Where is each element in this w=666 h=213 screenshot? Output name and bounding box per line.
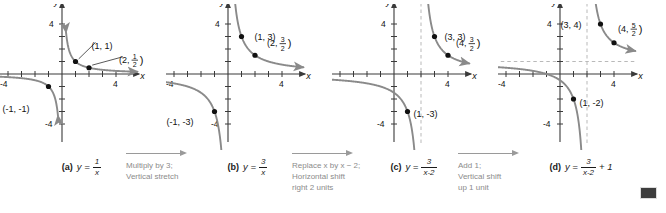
- svg-text:2: 2: [470, 45, 474, 52]
- data-point: [86, 65, 91, 70]
- equation-fraction-d: 3 x-2: [581, 158, 596, 177]
- svg-text:2: 2: [632, 30, 636, 37]
- x-tick-label-pos: 4: [113, 79, 118, 89]
- x-axis-label: x: [139, 71, 145, 81]
- equation-denominator-c: x-2: [421, 167, 436, 177]
- transition-arrow-icon-2: [292, 150, 354, 158]
- equation-a: y = 1 x: [77, 158, 104, 177]
- equation-lhs-d: y =: [565, 162, 578, 173]
- y-tick-label-pos: 4: [49, 19, 54, 29]
- graph-b: 4-44-4xy(1, 3)(2,32)(-1, -3): [166, 4, 332, 150]
- graph-a: 4-44-4xy(1, 1)(2,12)(-1, -1): [0, 4, 166, 150]
- graph-c: 44-4xy(3, 3)(4,32)(1, -3): [332, 4, 498, 150]
- transition-arrow-icon-3: [458, 150, 520, 158]
- data-point: [571, 96, 576, 101]
- equation-lhs-a: y =: [77, 162, 90, 173]
- transition-text-2: Replace x by x − 2; Horizontal shift rig…: [290, 161, 386, 193]
- point-label: (1, -3): [414, 109, 438, 119]
- data-point: [405, 109, 410, 114]
- transition-line1-1: Multiply by 3;: [126, 161, 220, 172]
- data-point: [432, 34, 437, 39]
- panel-letter-a: (a): [62, 162, 73, 172]
- equation-fraction-a: 1 x: [93, 158, 101, 177]
- transition-line2-3: Vertical shift: [458, 172, 552, 183]
- transition-a-to-b: Multiply by 3; Vertical stretch: [124, 150, 220, 183]
- plot-a: 4-44-4xy(1, 1)(2,12)(-1, -1): [0, 4, 166, 150]
- point-label: (1, -2): [580, 98, 604, 108]
- plot-c: 44-4xy(3, 3)(4,32)(1, -3): [332, 4, 498, 150]
- data-point: [73, 59, 78, 64]
- transition-text-1: Multiply by 3; Vertical stretch: [124, 161, 220, 183]
- equation-numerator-c: 3: [425, 158, 433, 167]
- transition-b-to-c: Replace x by x − 2; Horizontal shift rig…: [290, 150, 386, 193]
- x-tick-label-pos: 4: [445, 79, 450, 89]
- data-point: [598, 21, 603, 26]
- data-point: [212, 109, 217, 114]
- svg-text:): ): [288, 37, 292, 49]
- equation-numerator-a: 1: [93, 158, 101, 167]
- point-label: (3, 4): [561, 20, 582, 30]
- point-label: (1, 1): [92, 41, 113, 51]
- svg-text:(2,: (2,: [267, 38, 278, 48]
- data-point: [611, 40, 616, 45]
- curve-branch-left: [498, 66, 582, 150]
- transition-text-3: Add 1; Vertical shift up 1 unit: [456, 161, 552, 193]
- point-label: (2,12): [119, 53, 143, 69]
- svg-text:2: 2: [281, 45, 285, 52]
- transition-line3-2: right 2 units: [292, 183, 386, 194]
- panel-letter-c: (c): [390, 162, 401, 172]
- equation-denominator-d: x-2: [581, 167, 596, 177]
- plot-b: 4-44-4xy(1, 3)(2,32)(-1, -3): [166, 4, 332, 150]
- x-axis-label: x: [471, 71, 477, 81]
- point-label: (-1, -3): [167, 117, 194, 127]
- end-of-section-marker: [640, 187, 657, 199]
- equation-denominator-b: x: [259, 167, 267, 177]
- svg-text:(2,: (2,: [119, 55, 130, 65]
- transition-line1-3: Add 1;: [458, 161, 552, 172]
- y-tick-label-neg: -4: [543, 119, 551, 129]
- point-label: (4,32): [456, 36, 480, 52]
- svg-text:(4,: (4,: [618, 24, 629, 34]
- x-tick-label-neg: -4: [498, 79, 506, 89]
- svg-text:2: 2: [133, 61, 137, 68]
- transition-arrow-icon-1: [126, 150, 188, 158]
- data-point: [252, 53, 257, 58]
- curve-branch-left: [332, 79, 415, 150]
- transition-c-to-d: Add 1; Vertical shift up 1 unit: [456, 150, 552, 193]
- transition-line1-2: Replace x by x − 2;: [292, 161, 386, 172]
- curve-branch-right: [66, 32, 137, 71]
- y-tick-label-pos: 4: [381, 19, 386, 29]
- graph-d: 4-44-4xy(3, 4)(4,52)(1, -2): [498, 4, 664, 150]
- y-tick-label-neg: -4: [377, 119, 385, 129]
- transition-line3-3: up 1 unit: [458, 183, 552, 194]
- transition-line2-2: Horizontal shift: [292, 172, 386, 183]
- svg-text:): ): [477, 37, 481, 49]
- point-label: (2,32): [267, 36, 291, 52]
- y-axis-label: y: [219, 4, 225, 7]
- svg-text:3: 3: [281, 36, 285, 43]
- x-axis-label: x: [637, 71, 643, 81]
- svg-text:5: 5: [632, 22, 636, 29]
- equation-lhs-c: y =: [405, 162, 418, 173]
- curve-branch-left: [166, 81, 222, 150]
- svg-text:1: 1: [133, 53, 137, 60]
- y-axis-label: y: [551, 4, 557, 7]
- equation-b: y = 3 x: [243, 158, 270, 177]
- equation-numerator-d: 3: [584, 158, 592, 167]
- svg-text:3: 3: [470, 36, 474, 43]
- y-axis-label: y: [385, 4, 391, 7]
- y-tick-label-pos: 4: [547, 19, 552, 29]
- y-axis-label: y: [53, 4, 59, 7]
- x-tick-label-pos: 4: [611, 79, 616, 89]
- equation-tail-d: + 1: [599, 162, 612, 173]
- equation-denominator-a: x: [93, 167, 101, 177]
- plot-d: 4-44-4xy(3, 4)(4,52)(1, -2): [498, 4, 664, 150]
- point-label: (-1, -1): [3, 104, 30, 114]
- data-point: [239, 34, 244, 39]
- equation-numerator-b: 3: [259, 158, 267, 167]
- x-axis-label: x: [305, 71, 311, 81]
- equation-fraction-c: 3 x-2: [421, 158, 436, 177]
- y-tick-label-neg: -4: [45, 119, 53, 129]
- transition-line2-1: Vertical stretch: [126, 172, 220, 183]
- svg-text:): ): [639, 23, 643, 35]
